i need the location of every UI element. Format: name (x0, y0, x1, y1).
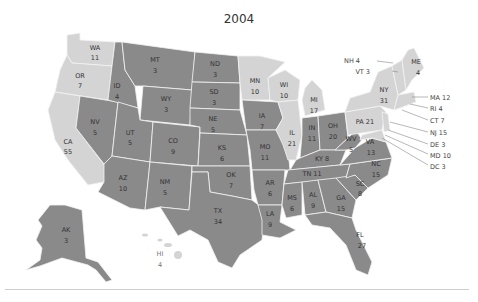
votes-oh: 20 (329, 133, 337, 141)
label-ar: AR (266, 179, 275, 187)
votes-ak: 3 (64, 237, 68, 245)
votes-nm: 5 (163, 189, 167, 197)
callout-vt: VT 3 (355, 68, 370, 76)
label-co: CO (168, 137, 178, 145)
votes-az: 10 (119, 185, 127, 193)
label-ne: NE (209, 115, 218, 123)
label-ks: KS (218, 144, 226, 152)
votes-ar: 6 (268, 190, 272, 198)
label-ak: AK (62, 226, 71, 234)
label-ca: CA (64, 138, 74, 146)
state-nj[interactable] (382, 112, 390, 132)
votes-ca: 55 (64, 148, 72, 156)
votes-va: 13 (367, 149, 375, 157)
state-mt[interactable] (122, 42, 195, 90)
label-va: VA (366, 138, 375, 146)
label-ky: KY 8 (315, 155, 329, 163)
state-ak[interactable] (26, 205, 112, 282)
votes-nd: 3 (213, 71, 217, 79)
label-mo: MO (260, 143, 271, 151)
votes-ms: 6 (290, 205, 294, 213)
callout-nh: NH 4 (344, 57, 360, 65)
state-az[interactable] (98, 156, 150, 210)
state-ar[interactable] (252, 170, 285, 205)
label-in: IN (309, 124, 316, 132)
state-ny[interactable] (345, 66, 398, 112)
label-nc: NC (371, 160, 381, 168)
votes-il: 21 (288, 140, 296, 148)
label-al: AL (309, 191, 317, 199)
label-la: LA (266, 210, 275, 218)
votes-ne: 5 (211, 126, 215, 134)
label-tx: TX (213, 207, 223, 215)
label-wi: WI (280, 81, 288, 89)
votes-wi: 10 (280, 92, 288, 100)
label-hi: HI (157, 250, 164, 258)
callout-ma: MA 12 (430, 94, 450, 102)
label-tn: TN 11 (301, 170, 321, 178)
votes-wy: 3 (164, 106, 168, 114)
label-nv: NV (90, 118, 100, 126)
callout-dc: DC 3 (430, 163, 446, 171)
votes-tx: 34 (214, 218, 222, 226)
label-ms: MS (287, 194, 297, 202)
label-ga: GA (336, 194, 346, 202)
label-wa: WA (90, 44, 101, 52)
votes-ny: 31 (380, 97, 388, 105)
callout-ri: RI 4 (430, 105, 443, 113)
callout-de: DE 3 (430, 141, 445, 149)
votes-nv: 5 (93, 129, 97, 137)
label-ia: IA (259, 112, 266, 120)
votes-sd: 3 (212, 99, 216, 107)
votes-la: 9 (268, 221, 272, 229)
votes-ia: 7 (260, 123, 264, 131)
votes-sc: 8 (358, 190, 362, 198)
callout-nj: NJ 15 (430, 129, 447, 137)
label-ny: NY (380, 86, 389, 94)
label-ok: OK (226, 171, 236, 179)
label-sd: SD (209, 88, 218, 96)
votes-ga: 15 (337, 205, 345, 213)
votes-mn: 10 (251, 88, 259, 96)
label-wy: WY (161, 95, 171, 103)
votes-hi: 4 (158, 261, 162, 269)
label-oh: OH (328, 122, 338, 130)
label-me: ME (411, 58, 421, 66)
votes-id: 4 (115, 93, 119, 101)
label-fl: FL (356, 231, 364, 239)
votes-ks: 6 (220, 155, 224, 163)
votes-or: 7 (78, 82, 82, 90)
bottom-divider (5, 289, 469, 290)
us-electoral-map: WA 11 OR 7 CA 55 NV 5 ID 4 MT 3 WY 3 UT … (0, 0, 478, 302)
label-mi: MI (310, 96, 318, 104)
votes-me: 4 (416, 69, 420, 77)
votes-nc: 15 (372, 171, 380, 179)
label-il: IL (289, 129, 295, 137)
label-id: ID (114, 82, 121, 90)
callout-md: MD 10 (430, 152, 451, 160)
votes-mt: 3 (153, 67, 157, 75)
label-pa: PA 21 (356, 118, 374, 126)
votes-al: 9 (311, 202, 315, 210)
votes-co: 9 (171, 148, 175, 156)
label-wv: WV (346, 135, 357, 143)
label-or: OR (75, 72, 85, 80)
votes-wv: 5 (349, 146, 353, 154)
state-me[interactable] (402, 48, 424, 90)
votes-in: 11 (308, 135, 316, 143)
votes-fl: 27 (358, 242, 366, 250)
label-mt: MT (150, 56, 160, 64)
label-az: AZ (119, 174, 128, 182)
votes-ok: 7 (229, 182, 233, 190)
label-mn: MN (250, 77, 261, 85)
votes-wa: 11 (91, 54, 99, 62)
state-nm[interactable] (145, 162, 192, 210)
votes-ut: 5 (128, 139, 132, 147)
callout-ct: CT 7 (430, 117, 445, 125)
votes-mo: 11 (261, 154, 269, 162)
label-ut: UT (126, 129, 135, 137)
label-nd: ND (210, 60, 220, 68)
votes-mi: 17 (310, 107, 318, 115)
label-sc: SC (356, 180, 365, 188)
label-nm: NM (160, 178, 170, 186)
